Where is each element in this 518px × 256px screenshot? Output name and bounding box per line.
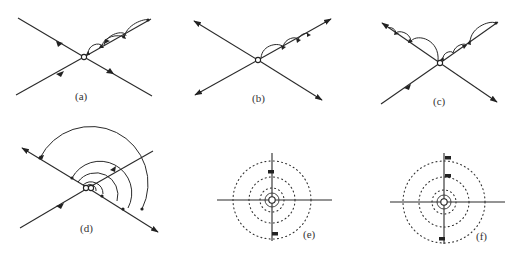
vertex: [441, 199, 447, 205]
axis-marker: [272, 232, 278, 236]
panel-b: (b): [194, 19, 331, 105]
loop-arc: [88, 44, 102, 54]
loop-endpoint: [146, 18, 149, 21]
vertex: [81, 54, 86, 59]
arrow-icon: [307, 33, 311, 37]
loop-arc: [396, 32, 411, 41]
branch-line: [195, 60, 258, 95]
panel-label: (a): [75, 90, 88, 103]
panel-f: (f): [390, 153, 505, 244]
panel-e: (e): [217, 153, 332, 241]
arc-endpoint: [140, 207, 143, 210]
vertex: [83, 185, 88, 190]
branch-line: [258, 19, 331, 60]
branch-line: [16, 57, 84, 95]
panel-label: (c): [433, 95, 446, 108]
panel-label: (d): [80, 222, 93, 235]
branch-line: [84, 19, 151, 57]
axis-marker: [445, 174, 451, 178]
branch-line: [88, 151, 153, 188]
panel-a: (a): [16, 18, 152, 103]
branch-line: [20, 188, 88, 228]
axis-marker: [439, 237, 445, 241]
axis-marker: [268, 170, 274, 174]
panel-d: (d): [20, 126, 158, 235]
loop-endpoint: [495, 22, 498, 25]
vertex: [88, 185, 93, 190]
branch-line: [381, 63, 440, 104]
vertex: [437, 60, 442, 65]
arrow-icon: [106, 68, 114, 74]
branch-line: [440, 63, 497, 102]
loop-arc: [411, 38, 438, 61]
arrow-icon: [110, 166, 116, 172]
branch-line: [18, 18, 84, 57]
panel-c: (c): [381, 22, 498, 109]
arc-endpoint: [70, 176, 73, 179]
arc-endpoint: [121, 207, 124, 210]
panel-label: (e): [303, 228, 316, 241]
loop-arc: [443, 52, 453, 60]
branch-line: [84, 57, 152, 96]
branch-line: [258, 60, 322, 100]
arc-endpoint: [100, 194, 103, 197]
panel-label: (b): [252, 92, 265, 105]
panel-label: (f): [476, 230, 487, 243]
arrow-icon: [86, 51, 90, 55]
axis-marker: [445, 156, 451, 160]
diagram-figure: (a) (b) (c): [0, 0, 518, 256]
vertex: [255, 57, 260, 62]
branch-line: [194, 21, 258, 60]
vertex: [269, 197, 275, 203]
